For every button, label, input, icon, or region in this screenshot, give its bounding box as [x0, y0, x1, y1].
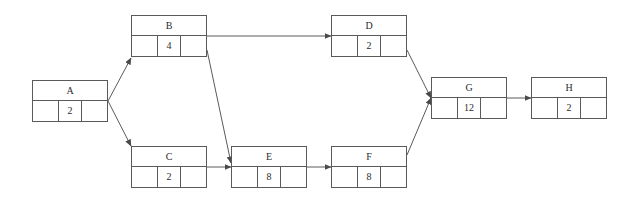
node-c[interactable]: C2: [131, 146, 207, 188]
node-h-label: H: [532, 78, 606, 98]
node-b-cell-right: [181, 36, 206, 56]
node-g-duration: 12: [457, 98, 482, 118]
node-b-cell-left: [132, 36, 157, 56]
node-d-duration: 2: [357, 36, 382, 56]
node-b-duration: 4: [157, 36, 182, 56]
node-c-duration: 2: [157, 167, 182, 187]
node-e[interactable]: E8: [231, 146, 307, 188]
node-f[interactable]: F8: [331, 146, 407, 188]
node-f-cell-right: [381, 167, 406, 187]
edge-a-to-b: [108, 58, 131, 101]
node-c-cells: 2: [132, 167, 206, 187]
node-h-cell-left: [532, 98, 557, 118]
node-d[interactable]: D2: [331, 15, 407, 57]
node-g-cells: 12: [432, 98, 506, 118]
node-f-cell-left: [332, 167, 357, 187]
node-d-cells: 2: [332, 36, 406, 56]
network-diagram: A2B4C2D2E8F8G12H2: [0, 0, 633, 200]
node-g-cell-right: [481, 98, 506, 118]
node-e-duration: 8: [257, 167, 282, 187]
node-e-cell-right: [281, 167, 306, 187]
node-d-cell-right: [381, 36, 406, 56]
edge-d-to-g: [407, 50, 431, 98]
node-a-cell-left: [33, 101, 58, 121]
node-h[interactable]: H2: [531, 77, 607, 119]
edge-a-to-c: [108, 101, 131, 146]
node-a-duration: 2: [58, 101, 83, 121]
node-c-cell-right: [181, 167, 206, 187]
node-d-cell-left: [332, 36, 357, 56]
node-f-label: F: [332, 147, 406, 167]
node-a-cells: 2: [33, 101, 107, 121]
node-g-label: G: [432, 78, 506, 98]
node-e-label: E: [232, 147, 306, 167]
node-b[interactable]: B4: [131, 15, 207, 57]
node-a[interactable]: A2: [32, 80, 108, 122]
node-f-cells: 8: [332, 167, 406, 187]
node-g-cell-left: [432, 98, 457, 118]
edge-b-to-e: [207, 50, 231, 163]
node-e-cells: 8: [232, 167, 306, 187]
node-c-cell-left: [132, 167, 157, 187]
node-a-label: A: [33, 81, 107, 101]
node-g[interactable]: G12: [431, 77, 507, 119]
node-f-duration: 8: [357, 167, 382, 187]
edge-f-to-g: [407, 98, 431, 155]
node-e-cell-left: [232, 167, 257, 187]
node-b-cells: 4: [132, 36, 206, 56]
node-d-label: D: [332, 16, 406, 36]
node-a-cell-right: [82, 101, 107, 121]
node-c-label: C: [132, 147, 206, 167]
node-h-cell-right: [581, 98, 606, 118]
node-b-label: B: [132, 16, 206, 36]
node-h-cells: 2: [532, 98, 606, 118]
node-h-duration: 2: [557, 98, 582, 118]
